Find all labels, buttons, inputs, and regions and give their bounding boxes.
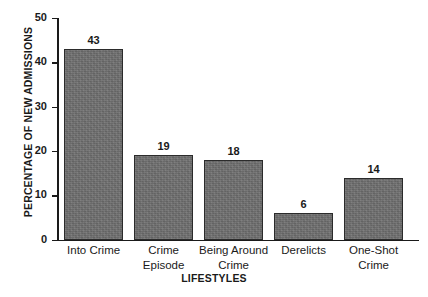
bar-value-label: 18 <box>184 145 283 157</box>
x-axis-category-label-line: One-Shot <box>339 243 409 258</box>
x-axis-category-label-line: Crime <box>339 258 409 273</box>
bar-value-label: 14 <box>324 163 423 175</box>
bar <box>274 213 333 240</box>
x-axis-title: LIFESTYLES <box>0 272 428 284</box>
y-axis-tick-mark <box>52 240 57 241</box>
x-axis-category-label-line: Being Around <box>199 243 269 258</box>
x-axis-category-label: One-ShotCrime <box>339 243 409 272</box>
x-axis-category-label: Into Crime <box>59 243 129 258</box>
bar <box>134 155 193 239</box>
y-axis-tick-mark <box>52 18 57 19</box>
y-axis-tick-mark <box>52 107 57 108</box>
y-axis-tick-label: 40 <box>35 55 47 67</box>
y-axis-tick-mark <box>52 151 57 152</box>
y-axis-tick-label: 10 <box>35 188 47 200</box>
bar-chart: PERCENTAGE OF NEW ADMISSIONS 01020304050… <box>0 0 428 297</box>
x-axis-category-label-line: Into Crime <box>59 243 129 258</box>
y-axis-title: PERCENTAGE OF NEW ADMISSIONS <box>19 7 37 237</box>
y-axis-tick-mark <box>52 195 57 196</box>
x-axis-category-label: Derelicts <box>269 243 339 258</box>
y-axis-tick-label: 30 <box>35 100 47 112</box>
x-axis-category-label-line: Crime <box>199 258 269 273</box>
y-axis-tick-label: 50 <box>35 11 47 23</box>
y-axis-tick-mark <box>52 62 57 63</box>
x-axis-line <box>57 240 419 242</box>
bar <box>344 178 403 240</box>
bar-value-label: 6 <box>254 198 353 210</box>
x-axis-category-label-line: Episode <box>129 258 199 273</box>
x-axis-category-label: Being AroundCrime <box>199 243 269 272</box>
x-axis-category-label-line: Derelicts <box>269 243 339 258</box>
y-axis-tick-label: 0 <box>41 233 47 245</box>
bars-layer: 431918614 <box>59 18 409 240</box>
bar-value-label: 43 <box>44 34 143 46</box>
x-axis-category-label-line: Crime <box>129 243 199 258</box>
y-axis-tick-label: 20 <box>35 144 47 156</box>
x-axis-category-label: CrimeEpisode <box>129 243 199 272</box>
